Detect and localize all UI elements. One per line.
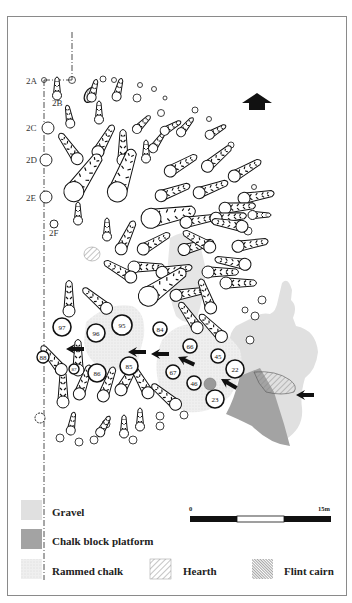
site-plan: 2A 2B 2C 2D 2E 2F <box>0 0 352 603</box>
dark-pit <box>204 378 216 390</box>
legend-label-rammed: Rammed chalk <box>52 565 124 577</box>
svg-text:84: 84 <box>157 326 165 334</box>
feature-96: 96 <box>87 324 105 342</box>
legend-label-platform: Chalk block platform <box>52 535 153 547</box>
legend-swatch-flint-cairn <box>252 559 273 579</box>
legend-label-flint-cairn: Flint cairn <box>284 565 334 577</box>
feature-88: 88 <box>37 351 49 363</box>
grid-label-2c: 2C <box>26 123 37 133</box>
feature-85: 85 <box>120 357 138 375</box>
legend-swatch-hearth <box>150 559 171 579</box>
feature-97: 97 <box>53 318 71 336</box>
legend-swatch-platform <box>21 529 42 549</box>
svg-text:23: 23 <box>212 396 220 404</box>
scale-start-label: 0 <box>189 505 192 512</box>
svg-text:88: 88 <box>40 354 48 362</box>
legend-swatch-gravel <box>21 500 42 520</box>
legend-swatch-rammed <box>21 559 42 579</box>
svg-text:46: 46 <box>191 380 199 388</box>
feature-66: 66 <box>183 339 197 353</box>
legend-label-gravel: Gravel <box>52 506 84 518</box>
svg-text:97: 97 <box>59 324 67 332</box>
feature-45: 45 <box>211 349 225 363</box>
scale-end-label: 15m <box>318 505 331 512</box>
legend-label-hearth: Hearth <box>183 565 217 577</box>
svg-text:96: 96 <box>93 330 101 338</box>
grid-label-2d: 2D <box>26 155 38 165</box>
svg-text:86: 86 <box>94 370 102 378</box>
feature-95: 95 <box>112 315 132 335</box>
feature-84: 84 <box>153 322 167 336</box>
svg-text:85: 85 <box>126 363 134 371</box>
feature-46: 46 <box>187 376 201 390</box>
feature-86: 86 <box>88 364 106 382</box>
grid-label-2e: 2E <box>26 193 37 203</box>
svg-text:66: 66 <box>187 343 195 351</box>
north-arrow-icon <box>242 93 272 110</box>
feature-67: 67 <box>166 365 180 379</box>
svg-text:45: 45 <box>215 353 223 361</box>
grid-pits <box>35 122 58 423</box>
hearth-west <box>84 247 100 261</box>
grid-label-2f: 2F <box>49 228 59 238</box>
svg-text:22: 22 <box>232 366 240 374</box>
svg-text:87: 87 <box>72 367 78 372</box>
feature-23: 23 <box>206 390 224 408</box>
legend: Gravel Chalk block platform Rammed chalk… <box>21 500 334 579</box>
grid-label-2a: 2A <box>26 76 38 86</box>
feature-22: 22 <box>226 360 244 378</box>
svg-text:67: 67 <box>170 369 178 377</box>
scale-bar: 0 15m <box>189 505 331 522</box>
feature-87: 87 <box>69 364 79 374</box>
svg-text:95: 95 <box>119 322 127 330</box>
